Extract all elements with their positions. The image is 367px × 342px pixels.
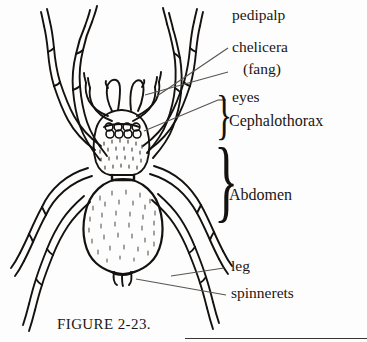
label-eyes: eyes [232, 89, 260, 105]
label-chelicera: chelicera [232, 39, 288, 55]
label-abdomen: Abdomen [229, 187, 292, 203]
figure-caption: FIGURE 2-23. [57, 316, 151, 333]
spider-illustration [0, 0, 367, 342]
label-cephalothorax: Cephalothorax [229, 113, 323, 129]
label-pedipalp: pedipalp [232, 7, 285, 23]
figure-panel: } } pedipalp chelicera (fang) eyes Cepha… [0, 0, 367, 342]
abdomen-brace: } [214, 134, 238, 226]
label-leg: leg [231, 258, 250, 274]
label-fang: (fang) [243, 61, 281, 77]
leader-eyes [144, 100, 218, 131]
bottom-rule [185, 338, 367, 339]
leader-spinnerets [136, 279, 226, 295]
label-spinnerets: spinnerets [231, 285, 294, 301]
abdomen-stipple [89, 190, 155, 262]
